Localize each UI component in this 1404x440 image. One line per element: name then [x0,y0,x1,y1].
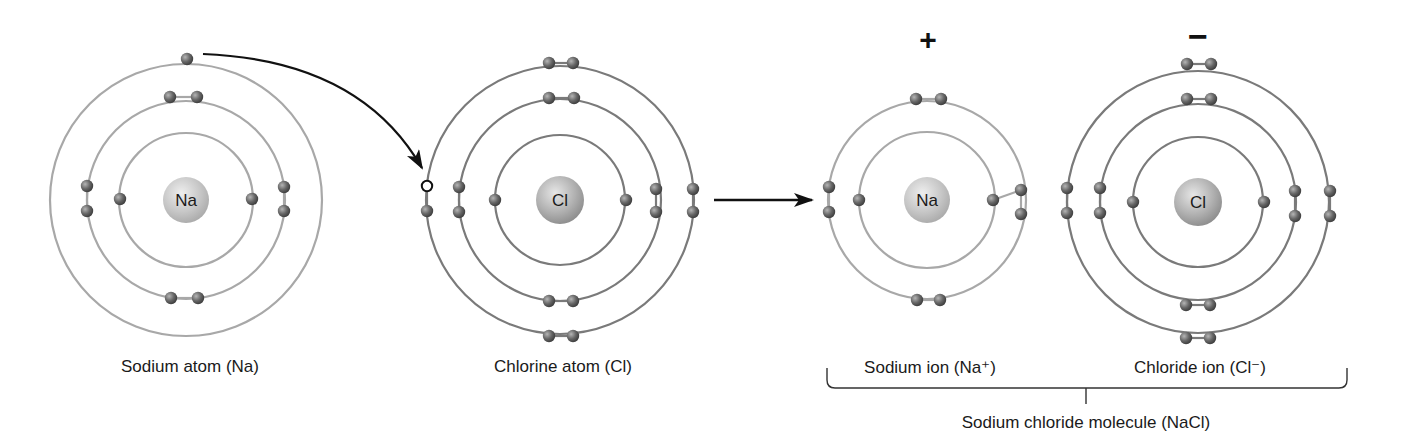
electron-icon [1205,93,1217,105]
electron-icon [114,193,126,205]
positive-charge-icon: + [919,23,937,57]
electron-icon [1204,332,1216,344]
electron-icon [1061,207,1073,219]
chlorine-atom: Cl [421,57,699,342]
label-sodium-atom: Sodium atom (Na) [121,357,259,377]
electron-icon [987,194,999,206]
electron-icon [421,205,433,217]
electron-icon [489,194,501,206]
electron-icon [453,181,465,193]
electron-icon [1180,299,1192,311]
electron-icon [1015,208,1027,220]
electron-icon [543,295,555,307]
electron-icon [620,194,632,206]
electron-icon [181,53,193,65]
element-symbol: Cl [552,191,568,210]
electron-icon [911,294,923,306]
nacl-diagram: NaClNaCl Sodium atom (Na) Chlorine atom … [0,0,1404,440]
electron-icon [934,294,946,306]
label-chloride-ion: Chloride ion (Cl⁻) [1134,357,1266,378]
electron-icon [823,206,835,218]
electron-icon [543,57,555,69]
electron-icon [1324,210,1336,222]
element-symbol: Cl [1190,193,1206,212]
label-sodium-chloride-molecule: Sodium chloride molecule (NaCl) [962,413,1210,433]
electron-icon [1205,58,1217,70]
electron-icon [453,206,465,218]
electron-icon [910,93,922,105]
electron-icon [853,194,865,206]
electron-icon [1094,207,1106,219]
electron-icon [1181,58,1193,70]
electron-icon [543,330,555,342]
electron-icon [246,193,258,205]
electron-icon [543,92,555,104]
electron-vacancy-icon [422,181,432,191]
electron-icon [1324,185,1336,197]
electron-icon [81,205,93,217]
electron-icon [567,330,579,342]
electron-icon [568,92,580,104]
electron-icon [278,181,290,193]
electron-icon [650,183,662,195]
electron-icon [191,91,203,103]
sodium-atom: Na [50,53,322,336]
electron-icon [650,206,662,218]
electron-icon [278,205,290,217]
electron-icon [567,295,579,307]
electron-icon [164,91,176,103]
atoms-layer: NaClNaCl [50,53,1336,344]
negative-charge-icon: − [1188,17,1208,56]
electron-icon [165,292,177,304]
label-chlorine-atom: Chlorine atom (Cl) [494,357,632,377]
element-symbol: Na [175,191,197,210]
electron-icon [687,183,699,195]
electron-icon [567,57,579,69]
electron-icon [1127,196,1139,208]
electron-icon [1258,196,1270,208]
electron-icon [687,206,699,218]
electron-icon [935,93,947,105]
label-sodium-ion: Sodium ion (Na⁺) [864,357,996,378]
electron-icon [1015,184,1027,196]
electron-icon [1289,185,1301,197]
electron-icon [1061,182,1073,194]
electron-icon [192,292,204,304]
electron-icon [1181,93,1193,105]
element-symbol: Na [916,191,938,210]
electron-icon [1180,332,1192,344]
sodium-ion: Na [823,93,1027,306]
electron-icon [823,181,835,193]
electron-icon [1094,182,1106,194]
electron-icon [1289,210,1301,222]
electron-icon [1204,299,1216,311]
chloride-ion: Cl [1061,58,1336,344]
electron-icon [81,180,93,192]
